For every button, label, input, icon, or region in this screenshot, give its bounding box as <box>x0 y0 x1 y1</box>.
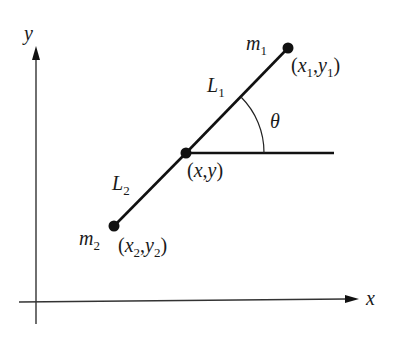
pivot-coordinates: (x,y) <box>187 159 223 182</box>
mass-2-label: m2 <box>79 227 100 253</box>
y-axis-label: y <box>22 22 33 45</box>
x-axis-arrow-icon <box>345 295 359 303</box>
x-axis-label: x <box>365 287 375 309</box>
rod-L1 <box>186 48 288 153</box>
mass-1-coordinates: (x1,y1) <box>291 54 340 80</box>
mass-2-dot <box>109 221 120 232</box>
y-axis-arrow-icon <box>32 46 40 60</box>
x-axis <box>19 299 346 302</box>
mass-2-coordinates: (x2,y2) <box>118 234 167 260</box>
length-2-label: L2 <box>111 172 130 198</box>
mass-1-label: m1 <box>246 32 267 58</box>
angle-arc <box>241 97 264 153</box>
length-1-label: L1 <box>206 74 225 100</box>
mass-1-dot <box>283 43 294 54</box>
angle-theta-label: θ <box>270 110 280 132</box>
pivot-dot <box>181 148 192 159</box>
dumbbell-diagram: y x m1 (x1,y1) L1 θ (x,y) <box>0 0 399 341</box>
